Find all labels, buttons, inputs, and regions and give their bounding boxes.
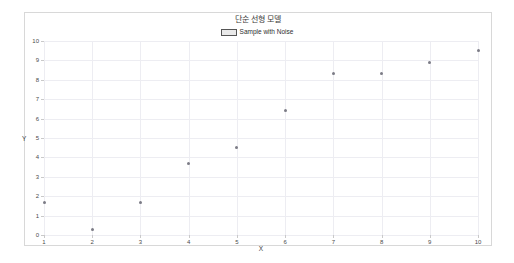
x-tick-mark — [430, 235, 431, 238]
chart-title: 단순 선형 모델 — [24, 14, 492, 25]
data-point — [139, 201, 142, 204]
y-tick-label: 6 — [36, 116, 39, 122]
chart-container: 단순 선형 모델 Sample with Noise 0123456789101… — [0, 0, 514, 263]
gridline-vertical — [285, 41, 286, 235]
gridline-vertical — [237, 41, 238, 235]
gridline-vertical — [92, 41, 93, 235]
gridline-vertical — [140, 41, 141, 235]
gridline-vertical — [189, 41, 190, 235]
gridline-horizontal — [44, 177, 478, 178]
gridline-horizontal — [44, 60, 478, 61]
data-point — [477, 49, 480, 52]
gridline-horizontal — [44, 216, 478, 217]
y-tick-label: 8 — [36, 77, 39, 83]
data-point — [91, 228, 94, 231]
data-point — [43, 201, 46, 204]
gridline-horizontal — [44, 80, 478, 81]
x-axis-label: X — [44, 245, 478, 252]
y-tick-label: 4 — [36, 154, 39, 160]
y-tick-label: 10 — [32, 38, 39, 44]
x-tick-mark — [140, 235, 141, 238]
gridline-vertical — [333, 41, 334, 235]
gridline-horizontal — [44, 41, 478, 42]
data-point — [284, 109, 287, 112]
x-tick-mark — [478, 235, 479, 238]
x-tick-mark — [237, 235, 238, 238]
plot-area: 01234567891012345678910 — [44, 41, 478, 235]
gridline-vertical — [44, 41, 45, 235]
gridline-horizontal — [44, 196, 478, 197]
x-tick-mark — [285, 235, 286, 238]
x-tick-mark — [189, 235, 190, 238]
y-tick-label: 5 — [36, 135, 39, 141]
x-tick-mark — [44, 235, 45, 238]
gridline-horizontal — [44, 99, 478, 100]
y-tick-label: 1 — [36, 213, 39, 219]
y-tick-label: 7 — [36, 96, 39, 102]
data-point — [235, 146, 238, 149]
gridline-horizontal — [44, 119, 478, 120]
y-tick-label: 9 — [36, 57, 39, 63]
gridline-vertical — [382, 41, 383, 235]
y-axis-label: Y — [22, 135, 26, 142]
data-point — [187, 162, 190, 165]
x-tick-mark — [333, 235, 334, 238]
gridline-horizontal — [44, 157, 478, 158]
x-tick-mark — [92, 235, 93, 238]
gridline-vertical — [478, 41, 479, 235]
y-tick-label: 2 — [36, 193, 39, 199]
gridline-horizontal — [44, 235, 478, 236]
y-tick-label: 3 — [36, 174, 39, 180]
y-tick-label: 0 — [36, 232, 39, 238]
gridline-vertical — [430, 41, 431, 235]
data-point — [428, 61, 431, 64]
gridline-horizontal — [44, 138, 478, 139]
x-tick-mark — [382, 235, 383, 238]
